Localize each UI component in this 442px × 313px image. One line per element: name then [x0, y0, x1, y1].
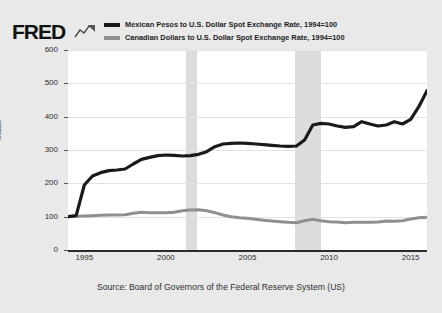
legend-label-canadian-dollar: Canadian Dollars to U.S. Dollar Spot Exc… [125, 33, 345, 42]
y-axis-label: Index [0, 120, 3, 140]
x-tick-label-2005: 2005 [228, 254, 268, 262]
x-tick-label-2010: 2010 [309, 254, 349, 262]
y-tick-label-300: 300 [14, 146, 58, 154]
y-tick-label-500: 500 [14, 79, 58, 87]
source-note: Source: Board of Governors of the Federa… [0, 282, 442, 292]
x-tick-label-2015: 2015 [391, 254, 431, 262]
x-tick-label-1995: 1995 [64, 254, 104, 262]
y-tick-label-100: 100 [14, 213, 58, 221]
y-tick-label-600: 600 [14, 46, 58, 54]
y-tick-label-400: 400 [14, 113, 58, 121]
series-lines [68, 50, 427, 250]
legend-swatch-canadian-dollar [104, 36, 120, 40]
y-tick-label-0: 0 [14, 246, 58, 254]
line-mexican-peso [68, 91, 427, 217]
fred-chart-screenshot: FRED Mexican Pesos to U.S. Dollar Spot E… [0, 0, 442, 313]
x-tick-label-2000: 2000 [146, 254, 186, 262]
y-tick-label-200: 200 [14, 179, 58, 187]
chart-legend: Mexican Pesos to U.S. Dollar Spot Exchan… [104, 19, 345, 45]
legend-label-mexican-peso: Mexican Pesos to U.S. Dollar Spot Exchan… [125, 20, 337, 29]
line-canadian-dollar [68, 210, 427, 223]
legend-item-mexican-peso: Mexican Pesos to U.S. Dollar Spot Exchan… [104, 19, 345, 30]
legend-item-canadian-dollar: Canadian Dollars to U.S. Dollar Spot Exc… [104, 32, 345, 43]
fred-logo: FRED [12, 21, 65, 42]
chart-header: FRED Mexican Pesos to U.S. Dollar Spot E… [0, 10, 442, 44]
plot-region [68, 50, 427, 250]
legend-swatch-mexican-peso [104, 23, 120, 27]
chart-area: Index 0100200300400500600 19952000200520… [0, 44, 442, 274]
fred-squiggle-icon [74, 24, 96, 40]
x-axis-line [68, 250, 427, 252]
